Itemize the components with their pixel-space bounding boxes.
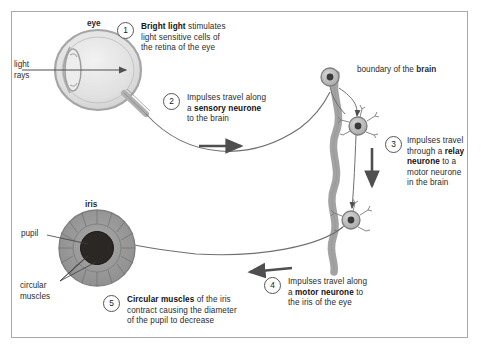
step-5-number: 5 xyxy=(103,295,120,312)
eye-label: eye xyxy=(87,19,101,29)
motor-neurone-axon xyxy=(112,227,343,272)
step-4-text: Impulses travel along a motor neurone to… xyxy=(288,277,418,309)
step-3-text: Impulses travel through a relay neurone … xyxy=(407,136,477,189)
light-rays-label-line1: light xyxy=(14,60,29,70)
iris-illustration xyxy=(59,210,135,286)
step-5-line3: of the pupil to decrease xyxy=(127,316,214,325)
step-1-line3: the retina of the eye xyxy=(141,43,215,52)
step-2-text: Impulses travel along a sensory neurone … xyxy=(187,93,315,125)
step-5-text: Circular muscles of the iris contract ca… xyxy=(127,295,292,327)
step-2-line2-bold: sensory neurone xyxy=(194,104,261,113)
step-5-line1-bold: Circular muscles xyxy=(127,295,194,304)
step-4-line2-tail: to xyxy=(354,288,363,297)
brain-boundary-label-bold: brain xyxy=(416,65,436,74)
step-5-line1-plain: of the iris xyxy=(194,295,230,304)
step-3-line1: Impulses travel xyxy=(407,136,463,145)
step-3-line3-bold: neurone xyxy=(407,157,440,166)
light-rays-label-line2: rays xyxy=(14,71,29,81)
step-1-line2: light sensitive cells of xyxy=(141,33,220,42)
step-1-line1-bold: Bright light xyxy=(141,22,186,31)
step-4-line2-bold: motor neurone xyxy=(295,288,354,297)
step-3-line2-plain: through a xyxy=(407,147,445,156)
step-4-line1: Impulses travel along xyxy=(288,277,367,286)
circular-muscles-label-line2: muscles xyxy=(20,292,50,302)
pupil-label: pupil xyxy=(21,229,38,239)
step-2-line1: Impulses travel along xyxy=(187,93,266,102)
step-1-text: Bright light stimulates light sensitive … xyxy=(141,22,273,54)
circular-muscles-label-line1: circular xyxy=(20,281,46,291)
step-3-line4: motor neurone xyxy=(407,168,461,177)
step-2-line3: to the brain xyxy=(187,114,229,123)
step-5-line2: contract causing the diameter xyxy=(127,306,237,315)
brain-boundary-label-plain: boundary of the xyxy=(357,65,416,74)
step-3-line3-plain: to a xyxy=(440,157,456,166)
eye-illustration xyxy=(55,30,150,114)
step-4-line3: the iris of the eye xyxy=(288,298,352,307)
step-2-line2-plain: a xyxy=(187,104,194,113)
step-4-number: 4 xyxy=(264,277,281,294)
step-3-line2-bold: relay xyxy=(445,147,465,156)
step-2-number: 2 xyxy=(163,93,180,110)
step-3-number: 3 xyxy=(385,136,402,153)
step-1-number: 1 xyxy=(117,22,134,39)
brain-boundary-label: boundary of the brain xyxy=(357,65,436,75)
step-1-line1-plain: stimulates xyxy=(186,22,226,31)
pupil-reflex-diagram: eye light rays boundary of the brain 1 B… xyxy=(0,0,481,350)
iris-label: iris xyxy=(85,200,97,210)
step-3-line5: in the brain xyxy=(407,178,449,187)
